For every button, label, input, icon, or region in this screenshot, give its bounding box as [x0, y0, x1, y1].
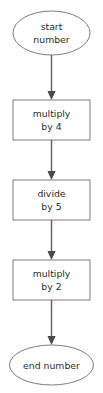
- node-end[interactable]: end number: [10, 345, 94, 385]
- step-1-label-line1: multiply: [33, 108, 71, 119]
- node-step-1[interactable]: multiply by 4: [13, 100, 90, 140]
- step-2-label-line2: by 5: [41, 201, 61, 212]
- step-3-label-line2: by 2: [41, 281, 61, 292]
- node-start[interactable]: start number: [13, 11, 90, 55]
- connector-start-to-step-1: [47, 55, 55, 100]
- step-1-label-line2: by 4: [41, 121, 61, 132]
- connector-step-2-to-step-3: [47, 220, 55, 260]
- start-label-line2: number: [33, 34, 69, 45]
- arrowhead-down-icon-3: [47, 251, 55, 260]
- connector-step-3-to-end: [47, 300, 55, 345]
- arrowhead-down-icon-1: [47, 91, 55, 100]
- connector-step-1-to-step-2: [47, 140, 55, 180]
- arrowhead-down-icon-2: [47, 171, 55, 180]
- end-label-line1: end number: [23, 360, 80, 371]
- flowchart-canvas: start number multiply by 4 divide by 5: [0, 0, 103, 393]
- arrowhead-down-icon-4: [47, 336, 55, 345]
- step-2-label-line1: divide: [37, 188, 65, 199]
- node-step-3[interactable]: multiply by 2: [13, 260, 90, 300]
- flowchart-diagram: start number multiply by 4 divide by 5: [0, 0, 103, 393]
- step-3-label-line1: multiply: [33, 268, 71, 279]
- node-step-2[interactable]: divide by 5: [13, 180, 90, 220]
- start-label-line1: start: [41, 21, 63, 32]
